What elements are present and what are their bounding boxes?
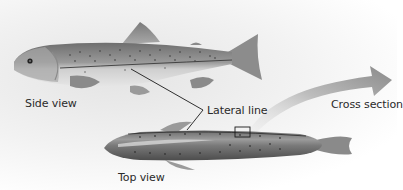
cross-section-label: Cross section (331, 98, 403, 111)
lateral-line-label: Lateral line (207, 104, 267, 117)
top-view-fish (104, 122, 352, 170)
top-view-label: Top view (118, 171, 165, 184)
side-view-fish (14, 22, 262, 95)
side-view-label: Side view (25, 97, 77, 110)
